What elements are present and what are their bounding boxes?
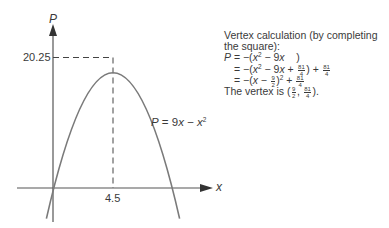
conclusion-text: The vertex is ( <box>224 85 291 97</box>
step3-text: = −( <box>234 74 253 86</box>
step1-lhs: P <box>224 51 231 63</box>
conclusion-fraction-x: 92 <box>292 86 296 99</box>
step2-fraction-2: 814 <box>323 64 331 77</box>
step3-plus: + <box>283 74 295 86</box>
vertex-x-value-label: 4.5 <box>105 193 120 204</box>
frac-den: 4 <box>304 93 312 99</box>
frac-den: 2 <box>292 93 296 99</box>
step2-text: = −( <box>234 63 253 75</box>
frac-den: 4 <box>323 71 331 77</box>
curve-eq: = 9 <box>159 116 179 128</box>
frac-num: 81 <box>296 75 304 82</box>
conclusion-close: ). <box>312 85 318 97</box>
calc-conclusion: The vertex is (92, 814). <box>224 86 378 97</box>
vertex-y-value-label: 20.25 <box>23 52 51 63</box>
y-axis-label: P <box>49 13 57 25</box>
step1-rest: − 9 <box>262 51 280 63</box>
curve-equation-label: P = 9x − x2 <box>151 117 206 129</box>
conclusion-fraction-y: 814 <box>304 86 312 99</box>
frac-num: 81 <box>304 86 312 93</box>
step2-plus: + <box>285 63 297 75</box>
curve-minus: − <box>184 116 197 128</box>
step2-rest: − 9 <box>262 63 280 75</box>
frac-num: 81 <box>298 64 306 71</box>
step1-close: ) <box>285 51 300 63</box>
step1-text: = −( <box>231 51 253 63</box>
step3-minus: − <box>258 74 270 86</box>
vertex-calculation: Vertex calculation (by completing the sq… <box>224 30 378 97</box>
curve-exp: 2 <box>203 116 207 123</box>
curve-lhs: P <box>151 116 159 128</box>
frac-num: 81 <box>323 64 331 71</box>
x-axis-label: x <box>216 181 222 193</box>
frac-num: 9 <box>271 75 275 82</box>
step2-close: ) + <box>306 63 321 75</box>
x-axis-arrow-icon <box>200 184 213 192</box>
frac-num: 9 <box>292 86 296 93</box>
conclusion-comma: , <box>297 85 303 97</box>
